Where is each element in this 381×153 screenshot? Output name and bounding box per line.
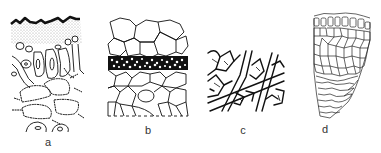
panel-a-drawing [8,14,88,136]
panel-c-drawing [206,45,286,113]
panel-b-drawing [106,16,190,120]
panel-d [300,10,376,122]
panel-b [106,16,190,120]
panel-b-label: b [142,125,154,136]
figure: a [0,0,381,153]
panel-d-drawing [300,10,376,122]
panel-c-label: c [237,125,249,136]
panel-d-label: d [319,124,331,135]
panel-a-label: a [42,137,54,148]
panel-a [8,14,88,136]
panel-c [206,45,286,113]
